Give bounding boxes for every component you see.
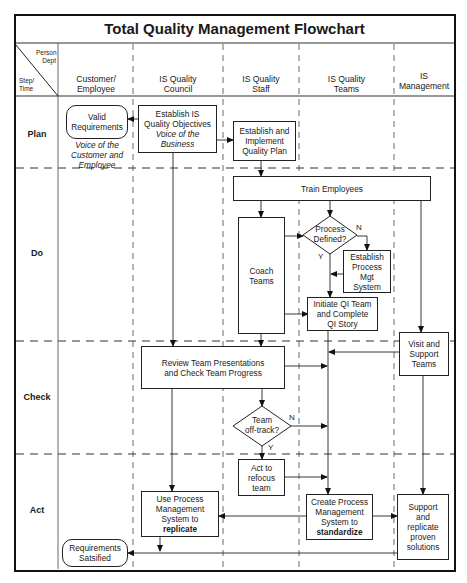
row-label-act: Act — [16, 505, 58, 515]
outer-frame — [14, 14, 456, 572]
decision-text: Team — [236, 416, 288, 426]
node-text: and Complete — [314, 309, 372, 319]
column-label-line: IS Quality — [224, 74, 298, 84]
note-text: Customer and — [62, 150, 132, 160]
node-establish-process-mgt-system: Establish Process Mgt System — [343, 250, 391, 293]
node-establish-quality-plan: Establish and Implement Quality Plan — [233, 121, 296, 161]
decision-team-off-track: Team off-track? — [236, 416, 288, 436]
node-visit-support-teams: Visit and Support Teams — [399, 332, 449, 376]
note-text: Voice of the — [62, 140, 132, 150]
node-text: System to — [311, 517, 368, 527]
node-text: QI Story — [314, 319, 372, 329]
node-text: System — [350, 282, 384, 292]
column-label-line: Staff — [224, 84, 298, 94]
node-text: Valid — [71, 112, 123, 122]
node-text: Establish — [350, 252, 384, 262]
node-text: replicate — [407, 522, 440, 532]
column-label-line: IS Quality — [300, 74, 393, 84]
node-text: Teams — [249, 276, 273, 286]
node-initiate-qi-team: Initiate QI Team and Complete QI Story — [307, 297, 378, 331]
note-text: Employee — [62, 160, 132, 170]
node-review-team-presentations: Review Team Presentations and Check Team… — [141, 346, 285, 389]
node-support-replicate-solutions: Support and replicate proven solutions — [397, 494, 449, 560]
column-label-line: Employee — [60, 84, 132, 94]
node-text: solutions — [407, 542, 440, 552]
node-text: refocus — [248, 473, 275, 483]
node-act-to-refocus: Act to refocus team — [238, 459, 285, 496]
decision-text: Defined? — [306, 235, 354, 245]
node-requirements-satisfied: Requirements Satsified — [62, 539, 128, 567]
node-text: Coach — [249, 266, 273, 276]
node-text: Requirements — [71, 122, 123, 132]
note-voice-of-customer: Voice of the Customer and Employee — [62, 140, 132, 170]
node-text: Support — [407, 502, 440, 512]
corner-step-time: Step/ Time — [19, 77, 34, 93]
node-text: Teams — [408, 359, 440, 369]
node-text: Visit and — [408, 339, 440, 349]
node-text: Initiate QI Team — [314, 299, 372, 309]
node-valid-requirements: Valid Requirements — [66, 105, 128, 139]
decision-text: off-track? — [236, 426, 288, 436]
node-text: Management — [311, 507, 368, 517]
node-text: Implement — [240, 136, 290, 146]
column-label-line: IS — [395, 71, 453, 81]
node-text: and — [407, 512, 440, 522]
node-coach-teams: Coach Teams — [238, 217, 285, 334]
node-text: proven — [407, 532, 440, 542]
column-label-line: Management — [395, 81, 453, 91]
column-is-quality-teams: IS Quality Teams — [300, 74, 393, 94]
row-label-check: Check — [16, 392, 58, 402]
column-is-quality-council: IS Quality Council — [134, 74, 222, 94]
node-note: Voice of the — [144, 129, 211, 139]
node-text: Use Process — [156, 494, 204, 504]
corner-time: Time — [19, 85, 34, 93]
column-label-line: Council — [134, 84, 222, 94]
node-text: Review Team Presentations — [162, 358, 265, 368]
node-train-employees: Train Employees — [233, 176, 431, 201]
decision-process-defined: Process Defined? — [306, 225, 354, 245]
column-label-line: Teams — [300, 84, 393, 94]
node-text: Act to — [248, 463, 275, 473]
decision-no-label: N — [289, 413, 295, 422]
node-emphasis: standardize — [311, 527, 368, 537]
node-text: and Check Team Progress — [162, 368, 265, 378]
decision-yes-label: Y — [318, 252, 323, 261]
column-label-line: IS Quality — [134, 74, 222, 84]
node-text: Establish and — [240, 126, 290, 136]
node-text: team — [248, 483, 275, 493]
node-text: Establish IS — [144, 109, 211, 119]
node-text: Process — [350, 262, 384, 272]
node-create-process-mgt-standardize: Create Process Management System to stan… — [306, 494, 373, 540]
node-text: Quality Plan — [240, 146, 290, 156]
node-text: Management — [156, 504, 204, 514]
node-emphasis: replicate — [156, 524, 204, 534]
column-is-management: IS Management — [395, 71, 453, 91]
node-text: Create Process — [311, 497, 368, 507]
node-note: Business — [144, 139, 211, 149]
node-establish-quality-objectives: Establish IS Quality Objectives Voice of… — [138, 105, 217, 153]
node-text: System to — [156, 514, 204, 524]
tqm-flowchart: Total Quality Management Flowchart Perso… — [0, 0, 467, 583]
decision-yes-label: Y — [268, 443, 273, 452]
node-text: Satsified — [69, 553, 121, 563]
node-use-process-mgt-replicate: Use Process Management System to replica… — [141, 491, 219, 537]
corner-step: Step/ — [19, 77, 34, 85]
corner-person: Person — [36, 49, 56, 57]
column-customer-employee: Customer/ Employee — [60, 74, 132, 94]
node-text: Mgt — [350, 272, 384, 282]
row-label-do: Do — [16, 248, 58, 258]
column-is-quality-staff: IS Quality Staff — [224, 74, 298, 94]
decision-no-label: N — [356, 223, 362, 232]
node-text: Requirements — [69, 543, 121, 553]
corner-person-dept: Person Dept — [36, 49, 56, 65]
decision-text: Process — [306, 225, 354, 235]
corner-dept: Dept — [36, 57, 56, 65]
node-text: Quality Objectives — [144, 119, 211, 129]
node-text: Support — [408, 349, 440, 359]
row-label-plan: Plan — [16, 129, 58, 139]
column-label-line: Customer/ — [60, 74, 132, 84]
chart-title: Total Quality Management Flowchart — [14, 16, 455, 42]
